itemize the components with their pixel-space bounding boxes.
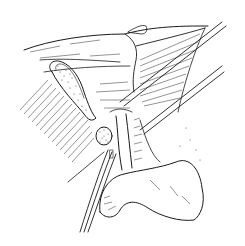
duodenum [100,127,204,220]
common-bile-duct [110,109,160,170]
illustration-canvas [0,0,245,246]
surgical-illustration [0,0,245,246]
stone [96,127,112,145]
liver [20,25,208,162]
drain-tubes [68,150,116,232]
retractor-upper [120,22,226,106]
